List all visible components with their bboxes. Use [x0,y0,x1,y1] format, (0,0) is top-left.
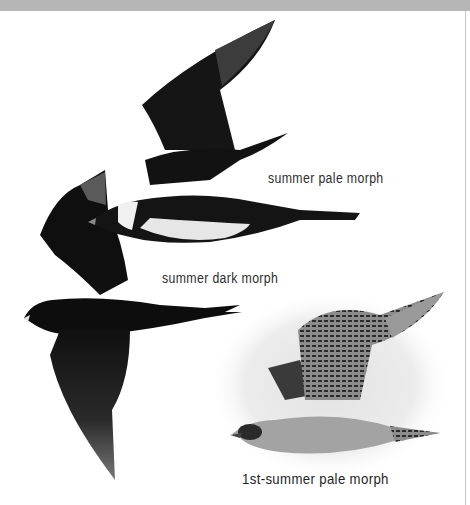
summer-pale-morph-figure [88,20,360,243]
illustration-plate: summer pale morph summer dark morph 1st-… [0,0,470,505]
caption-summer-pale-morph: summer pale morph [268,170,384,186]
caption-summer-dark-morph: summer dark morph [162,270,278,286]
caption-first-summer-pale-morph: 1st-summer pale morph [242,470,389,487]
bird-illustrations [0,0,470,505]
first-summer-pale-morph-figure [208,290,452,480]
